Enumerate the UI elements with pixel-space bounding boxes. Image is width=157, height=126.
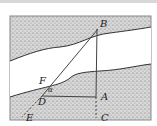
label-D: D — [37, 96, 46, 107]
label-alpha: α — [48, 86, 53, 94]
label-C: C — [101, 112, 109, 123]
label-E: E — [25, 112, 34, 123]
river-diagram: B F α D A E C — [0, 0, 157, 126]
label-A: A — [100, 91, 108, 102]
label-F: F — [38, 75, 47, 86]
label-B: B — [99, 18, 107, 29]
